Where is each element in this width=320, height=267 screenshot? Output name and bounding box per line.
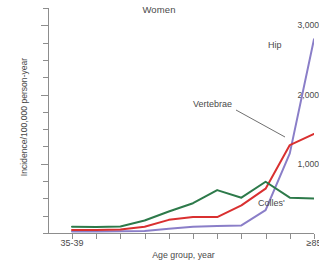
series-label-vertebrae: Vertebrae bbox=[193, 99, 232, 109]
series-label-hip: Hip bbox=[268, 40, 282, 50]
x-tick-label: 35-39 bbox=[61, 238, 84, 248]
y-tick-major bbox=[41, 164, 48, 165]
x-tick bbox=[120, 234, 121, 239]
x-tick bbox=[169, 234, 170, 239]
x-tick bbox=[193, 234, 194, 239]
x-tick bbox=[145, 234, 146, 239]
x-tick bbox=[290, 234, 291, 239]
x-tick bbox=[217, 234, 218, 239]
series-label-colles: Colles' bbox=[258, 198, 285, 208]
y-axis-title: Incidence/100,000 person-year bbox=[19, 17, 29, 217]
x-tick bbox=[96, 234, 97, 239]
x-tick-label: ≥85 bbox=[307, 238, 320, 248]
y-tick-major bbox=[41, 95, 48, 96]
x-axis-line bbox=[48, 233, 314, 234]
chart-figure: Women Incidence/100,000 person-year Age … bbox=[0, 0, 319, 267]
x-tick bbox=[266, 234, 267, 239]
y-tick-major bbox=[41, 25, 48, 26]
x-tick bbox=[241, 234, 242, 239]
y-tick-minor bbox=[43, 233, 48, 234]
x-axis-title: Age group, year bbox=[48, 250, 319, 260]
